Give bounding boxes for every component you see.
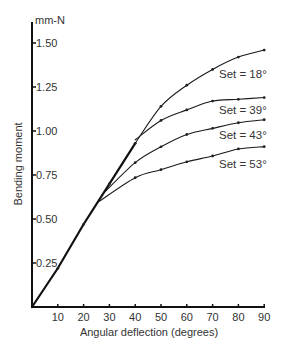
x-tick-label: 90: [258, 311, 270, 323]
y-tick-label: 0.50: [36, 213, 57, 225]
x-tick-label: 80: [232, 311, 244, 323]
data-point-marker: [185, 160, 188, 163]
y-ticks: 0.250.500.751.001.251.50: [32, 37, 57, 269]
data-point-marker: [263, 145, 266, 148]
data-point-marker: [263, 96, 266, 99]
y-tick-label: 0.25: [36, 257, 57, 269]
data-point-marker: [160, 119, 163, 122]
x-axis-title: Angular deflection (degrees): [80, 326, 218, 338]
x-tick-label: 10: [52, 311, 64, 323]
data-point-marker: [108, 182, 111, 185]
series-label-set-18: Set = 18°: [219, 68, 267, 80]
data-point-marker: [185, 108, 188, 111]
data-point-marker: [263, 118, 266, 121]
x-tick-label: 30: [103, 311, 115, 323]
data-point-marker: [185, 133, 188, 136]
x-tick-label: 50: [155, 311, 167, 323]
data-point-marker: [134, 161, 137, 164]
data-point-marker: [185, 84, 188, 87]
x-tick-label: 20: [77, 311, 89, 323]
curves: [32, 50, 264, 307]
bending-moment-chart: mm-N 0.250.500.751.001.251.50 1020304050…: [0, 0, 287, 349]
data-point-marker: [237, 98, 240, 101]
x-tick-label: 70: [206, 311, 218, 323]
data-point-marker: [56, 267, 59, 270]
y-tick-label: 1.50: [36, 37, 57, 49]
y-unit-label: mm-N: [35, 14, 65, 26]
x-tick-label: 60: [181, 311, 193, 323]
data-point-marker: [211, 68, 214, 71]
data-point-marker: [82, 223, 85, 226]
series-label-set-43: Set = 43°: [219, 129, 267, 141]
data-point-marker: [134, 142, 137, 145]
data-point-marker: [160, 105, 163, 108]
y-tick-label: 1.25: [36, 81, 57, 93]
data-point-marker: [237, 56, 240, 59]
data-point-marker: [211, 155, 214, 158]
data-point-marker: [263, 49, 266, 52]
series-label-set-53: Set = 53°: [219, 158, 267, 170]
data-point-marker: [160, 168, 163, 171]
data-point-marker: [237, 148, 240, 151]
data-point-marker: [237, 121, 240, 124]
x-tick-label: 40: [129, 311, 141, 323]
data-point-marker: [211, 100, 214, 103]
data-point-marker: [134, 176, 137, 179]
data-point-marker: [211, 127, 214, 130]
y-tick-label: 0.75: [36, 169, 57, 181]
y-axis-title: Bending moment: [12, 122, 24, 205]
set-53-curve: [99, 147, 264, 202]
series-label-set-39: Set = 39°: [219, 104, 267, 116]
data-point-marker: [160, 145, 163, 148]
y-tick-label: 1.00: [36, 125, 57, 137]
